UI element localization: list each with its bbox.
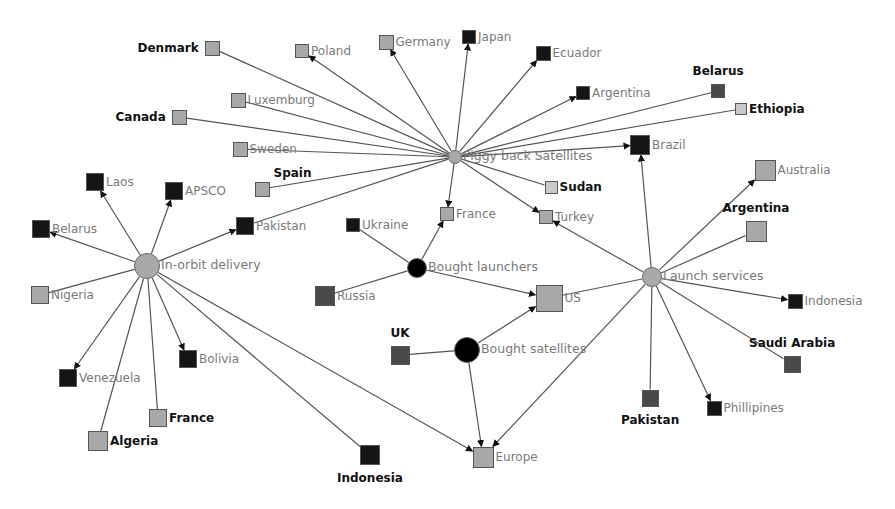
edge-inorbit-france2 (148, 279, 157, 409)
country-label: Nigeria (51, 288, 94, 302)
edge-inorbit-apsco (151, 200, 170, 254)
country-node-algeria[interactable] (88, 431, 108, 451)
country-node-argentina1[interactable] (576, 86, 590, 100)
country-label: UK (391, 326, 410, 340)
country-node-saudi[interactable] (784, 356, 801, 373)
country-node-nigeria[interactable] (31, 286, 49, 304)
hub-node-satellites[interactable] (454, 337, 480, 363)
country-node-pakistan2[interactable] (642, 390, 659, 407)
hub-label: Bought launchers (428, 260, 538, 274)
country-label: Turkey (555, 210, 594, 224)
country-label: Ethiopia (749, 102, 805, 116)
country-node-bolivia[interactable] (179, 350, 197, 368)
edge-launchsvc-brazil (641, 155, 651, 267)
country-label: Poland (311, 44, 351, 58)
edge-satellites-europe (469, 363, 482, 447)
country-node-venezuela[interactable] (59, 369, 77, 387)
country-label: Phillipines (724, 401, 784, 415)
country-label: Denmark (138, 41, 199, 55)
country-node-indonesia2[interactable] (360, 445, 380, 465)
edge-layer (0, 0, 895, 509)
country-label: Germany (396, 35, 451, 49)
country-node-japan[interactable] (462, 30, 476, 44)
country-node-germany[interactable] (379, 35, 394, 50)
country-node-poland[interactable] (295, 44, 309, 58)
country-label: Belarus (52, 222, 97, 236)
country-label: France (456, 207, 496, 221)
hub-label: Launch services (663, 269, 764, 283)
country-node-europe[interactable] (473, 447, 494, 468)
edge-launchsvc-turkey (553, 221, 643, 272)
edge-piggy-germany (391, 50, 452, 151)
country-node-sudan[interactable] (545, 181, 558, 194)
country-node-indonesia1[interactable] (788, 294, 803, 309)
hub-node-launchers[interactable] (407, 258, 427, 278)
country-label: APSCO (185, 184, 226, 198)
hub-node-piggy[interactable] (448, 150, 462, 164)
country-label: Indonesia (337, 471, 403, 485)
country-node-canada[interactable] (172, 110, 187, 125)
country-label: Japan (478, 30, 511, 44)
edge-launchsvc-pakistan2 (650, 287, 652, 390)
edge-launchsvc-australia (659, 180, 754, 270)
hub-node-inorbit[interactable] (134, 253, 160, 279)
country-node-uk[interactable] (391, 346, 410, 365)
country-label: Spain (274, 166, 312, 180)
country-label: Laos (106, 175, 134, 189)
country-node-brazil[interactable] (630, 135, 650, 155)
country-node-france2[interactable] (149, 409, 167, 427)
country-node-pakistan1[interactable] (236, 217, 254, 235)
country-label: Europe (496, 450, 538, 464)
network-diagram: Piggy back SatellitesIn-orbit deliveryBo… (0, 0, 895, 509)
hub-label: In-orbit delivery (161, 258, 261, 272)
country-node-luxemburg[interactable] (231, 93, 246, 108)
country-label: Argentina (723, 201, 790, 215)
country-label: Luxemburg (248, 93, 315, 107)
country-label: Venezuela (79, 371, 141, 385)
edge-satellites-us (478, 307, 536, 343)
country-node-argentina2[interactable] (746, 221, 767, 242)
edge-piggy-turkey (461, 161, 539, 213)
country-label: Argentina (592, 86, 651, 100)
country-label: Saudi Arabia (749, 336, 835, 350)
edge-piggy-france1 (448, 164, 454, 207)
country-label: Ukraine (362, 218, 408, 232)
edge-inorbit-laos (101, 191, 141, 255)
country-label: Pakistan (256, 219, 306, 233)
country-label: Russia (337, 289, 376, 303)
country-node-sweden[interactable] (233, 142, 248, 157)
country-label: France (169, 411, 214, 425)
country-node-france1[interactable] (440, 207, 454, 221)
country-node-belarus2[interactable] (32, 220, 50, 238)
country-node-ecuador[interactable] (536, 46, 551, 61)
country-node-belarus1[interactable] (711, 84, 725, 98)
country-label: Indonesia (805, 294, 863, 308)
edge-launchers-ukraine (360, 230, 409, 263)
country-label: Australia (778, 163, 831, 177)
country-node-ukraine[interactable] (346, 218, 360, 232)
country-node-denmark[interactable] (205, 41, 220, 56)
edge-satellites-uk (410, 351, 455, 354)
country-label: Ecuador (553, 46, 602, 60)
country-node-laos[interactable] (86, 173, 104, 191)
country-node-australia[interactable] (755, 160, 776, 181)
country-label: Pakistan (621, 413, 679, 427)
country-label: Bolivia (199, 352, 239, 366)
edge-piggy-japan (456, 44, 468, 150)
country-node-apsco[interactable] (165, 182, 183, 200)
country-node-turkey[interactable] (539, 210, 553, 224)
edge-piggy-canada (187, 118, 449, 156)
country-node-spain[interactable] (255, 182, 270, 197)
country-node-us[interactable] (536, 285, 563, 312)
hub-node-launchsvc[interactable] (642, 267, 662, 287)
edge-launchsvc-phillipines (656, 286, 710, 400)
edge-piggy-ecuador (460, 61, 537, 152)
hub-label: Bought satellites (481, 342, 586, 356)
country-node-russia[interactable] (315, 286, 335, 306)
country-label: Canada (116, 110, 166, 124)
country-label: Belarus (693, 64, 744, 78)
country-label: Sweden (250, 142, 297, 156)
hub-label: Piggy back Satellites (463, 149, 592, 163)
country-node-ethiopia[interactable] (735, 103, 747, 115)
country-node-phillipines[interactable] (707, 401, 722, 416)
